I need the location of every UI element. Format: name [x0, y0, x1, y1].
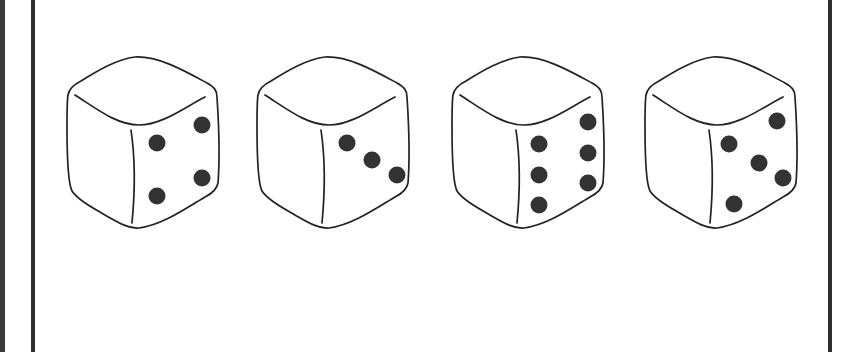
pip — [751, 155, 768, 172]
pip — [580, 175, 597, 192]
die-1 — [67, 57, 219, 228]
pip — [580, 114, 597, 131]
dice-illustration — [0, 0, 856, 352]
die-outline-icon — [67, 57, 219, 228]
pip — [364, 152, 381, 169]
pip — [580, 145, 597, 162]
pip — [726, 196, 743, 213]
die-2 — [257, 57, 409, 228]
pip — [769, 113, 786, 130]
pip — [339, 135, 356, 152]
die-4 — [645, 57, 797, 228]
pip — [721, 136, 738, 153]
die-3 — [452, 57, 604, 228]
pip — [194, 170, 211, 187]
die-outline-icon — [257, 57, 409, 228]
pip — [194, 117, 211, 134]
die-outline-icon — [452, 57, 604, 228]
pip — [775, 170, 792, 187]
pip — [149, 188, 166, 205]
pip — [531, 136, 548, 153]
pip — [531, 167, 548, 184]
pip — [149, 135, 166, 152]
pip — [531, 197, 548, 214]
pip — [389, 167, 406, 184]
